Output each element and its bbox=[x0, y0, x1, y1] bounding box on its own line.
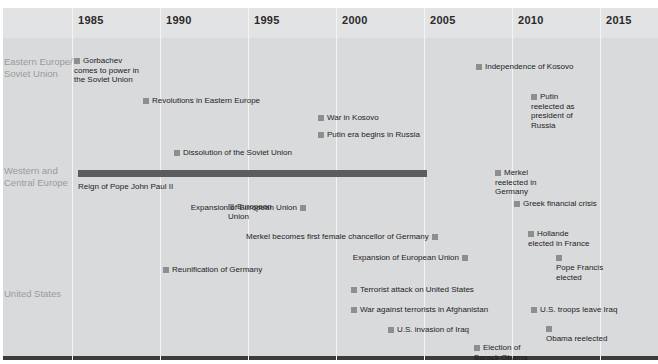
event-label: Merkel becomes first female chancellor o… bbox=[246, 232, 429, 241]
event-obama-reelected: Obama reelected bbox=[546, 326, 616, 344]
event-marker-icon bbox=[495, 170, 501, 176]
event-revolutions-eastern-europe: Revolutions in Eastern Europe bbox=[143, 96, 260, 106]
row-label-eastern-line2: Soviet Union bbox=[4, 68, 76, 80]
event-marker-icon bbox=[546, 326, 552, 332]
event-marker-icon bbox=[300, 205, 306, 211]
event-merkel-reelected: Merkel reelected in Germany bbox=[495, 168, 561, 197]
year-label-2000: 2000 bbox=[342, 14, 368, 26]
row-label-western-europe: Western and Central Europe bbox=[4, 165, 76, 188]
event-label: Revolutions in Eastern Europe bbox=[152, 96, 260, 105]
event-putin-era-begins: Putin era begins in Russia bbox=[318, 130, 420, 140]
event-label: War against terrorists in Afghanistan bbox=[360, 305, 488, 314]
event-expansion-eu-2004: Expansion of European Union bbox=[352, 253, 468, 263]
event-marker-icon bbox=[351, 287, 357, 293]
event-iraq-invasion: U.S. invasion of Iraq bbox=[388, 325, 469, 335]
event-label: Expansion of European Union bbox=[353, 253, 459, 262]
event-pope-francis-elected: Pope Francis elected bbox=[556, 255, 618, 282]
gridline-2000 bbox=[336, 8, 337, 360]
event-marker-icon bbox=[74, 58, 80, 64]
event-war-in-kosovo: War in Kosovo bbox=[318, 113, 379, 123]
event-marker-icon bbox=[143, 98, 149, 104]
event-greek-financial-crisis: Greek financial crisis bbox=[514, 199, 597, 209]
event-terrorist-attack: Terrorist attack on United States bbox=[351, 285, 474, 295]
event-hollande-elected: Hollande elected in France bbox=[528, 229, 592, 248]
year-label-1990: 1990 bbox=[166, 14, 192, 26]
event-marker-icon bbox=[474, 345, 480, 351]
year-label-2015: 2015 bbox=[606, 14, 632, 26]
event-gorbachev: Gorbachev comes to power in the Soviet U… bbox=[74, 56, 140, 85]
event-marker-icon bbox=[476, 64, 482, 70]
event-merkel-chancellor: Merkel becomes first female chancellor o… bbox=[246, 232, 432, 242]
event-obama-election: Election of Barack Obama bbox=[474, 343, 532, 362]
event-independence-of-kosovo: Independence of Kosovo bbox=[476, 62, 574, 72]
year-label-1985: 1985 bbox=[78, 14, 104, 26]
row-label-eastern-europe: Eastern Europe/ Soviet Union bbox=[4, 56, 76, 79]
event-marker-icon bbox=[531, 307, 537, 313]
event-dissolution-soviet-union: Dissolution of the Soviet Union bbox=[174, 148, 292, 158]
event-marker-icon bbox=[531, 94, 537, 100]
event-label: Hollande elected in France bbox=[528, 229, 589, 248]
gridline-1995 bbox=[248, 8, 249, 360]
row-label-eastern-line1: Eastern Europe/ bbox=[4, 56, 76, 68]
left-gutter-divider bbox=[0, 8, 3, 360]
event-label: Putin era begins in Russia bbox=[327, 130, 420, 139]
event-reunification-of-germany: Reunification of Germany bbox=[163, 265, 262, 275]
duration-bar-label-pope-john-paul-ii: Reign of Pope John Paul II bbox=[78, 182, 173, 191]
event-marker-icon bbox=[174, 150, 180, 156]
event-marker-icon bbox=[462, 255, 468, 261]
event-marker-icon bbox=[163, 267, 169, 273]
event-label: Reunification of Germany bbox=[172, 265, 262, 274]
event-label: War in Kosovo bbox=[327, 113, 379, 122]
year-label-1995: 1995 bbox=[254, 14, 280, 26]
event-marker-icon bbox=[556, 255, 562, 261]
event-label: Pope Francis elected bbox=[556, 263, 603, 282]
event-label: Gorbachev comes to power in the Soviet U… bbox=[74, 56, 139, 84]
row-label-us-line1: United States bbox=[4, 288, 76, 300]
event-expansion-eu-1995: Expansion of European Union bbox=[168, 203, 306, 213]
event-label: Expansion of European Union bbox=[191, 203, 297, 212]
event-label: Terrorist attack on United States bbox=[360, 285, 474, 294]
event-marker-icon bbox=[318, 115, 324, 121]
row-label-united-states: United States bbox=[4, 288, 76, 300]
event-label: Merkel reelected in Germany bbox=[495, 168, 536, 196]
event-putin-reelected: Putin reelected as president of Russia bbox=[531, 92, 593, 130]
event-marker-icon bbox=[432, 234, 438, 240]
event-marker-icon bbox=[318, 132, 324, 138]
event-marker-icon bbox=[388, 327, 394, 333]
event-label: Election of Barack Obama bbox=[474, 343, 527, 362]
event-label: Obama reelected bbox=[546, 334, 607, 343]
event-marker-icon bbox=[528, 231, 534, 237]
event-marker-icon bbox=[351, 307, 357, 313]
event-label: Greek financial crisis bbox=[523, 199, 597, 208]
event-label: Independence of Kosovo bbox=[485, 62, 574, 71]
year-label-2010: 2010 bbox=[518, 14, 544, 26]
row-label-western-line2: Central Europe bbox=[4, 177, 76, 189]
timeline-chart: 1985 1990 1995 2000 2005 2010 2015 Easte… bbox=[0, 0, 658, 364]
event-label: U.S. invasion of Iraq bbox=[397, 325, 469, 334]
event-war-afghanistan: War against terrorists in Afghanistan bbox=[351, 305, 488, 315]
duration-bar-pope-john-paul-ii bbox=[78, 170, 427, 177]
event-label: Putin reelected as president of Russia bbox=[531, 92, 575, 130]
year-label-2005: 2005 bbox=[430, 14, 456, 26]
event-label: Dissolution of the Soviet Union bbox=[183, 148, 292, 157]
event-marker-icon bbox=[514, 201, 520, 207]
row-label-western-line1: Western and bbox=[4, 165, 76, 177]
event-label: U.S. troops leave Iraq bbox=[540, 305, 617, 314]
event-troops-leave-iraq: U.S. troops leave Iraq bbox=[531, 305, 617, 315]
